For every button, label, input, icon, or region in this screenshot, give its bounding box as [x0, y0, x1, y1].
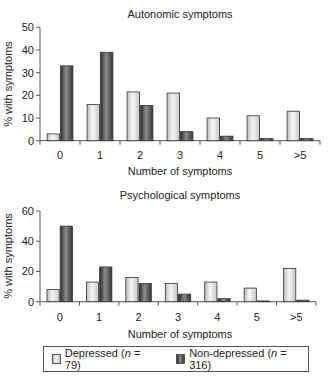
bar-group-4	[207, 118, 233, 141]
x-tick-label: 4	[217, 149, 223, 161]
bar-depressed	[47, 290, 59, 302]
legend-item-non-depressed: Non-depressed (n = 316)	[176, 347, 308, 371]
x-tick-label: 5	[254, 311, 260, 323]
x-tick-label: 1	[96, 311, 102, 323]
bar-depressed	[87, 104, 99, 140]
bar-non-depressed	[179, 294, 191, 302]
legend-label-non-depressed: Non-depressed (	[189, 347, 271, 359]
bar-group-gt5	[284, 268, 309, 301]
bar-group-0	[47, 66, 73, 141]
y-axis-label: % with symptoms	[2, 213, 14, 299]
bar-group-gt5	[287, 111, 313, 140]
bar-group-2	[127, 92, 153, 141]
legend-label-depressed: Depressed (	[65, 347, 125, 359]
x-tick-label: 5	[257, 149, 263, 161]
bar-group-1	[87, 52, 113, 140]
bar-non-depressed	[101, 52, 113, 140]
bar-non-depressed	[181, 132, 193, 141]
x-axis-label: Number of symptoms	[128, 165, 233, 177]
bar-depressed	[126, 278, 138, 302]
chart-title: Psychological symptoms	[120, 189, 241, 201]
x-tick-label: 1	[97, 149, 103, 161]
bar-depressed	[207, 118, 219, 141]
y-tick-label: 20	[22, 265, 34, 277]
bar-group-3	[165, 284, 190, 302]
y-tick-label: 10	[22, 112, 34, 124]
bar-depressed	[247, 116, 259, 141]
y-tick-label: 40	[22, 235, 34, 247]
legend: Depressed (n = 79) Non-depressed (n = 31…	[43, 346, 309, 372]
y-axis-label: % with symptoms	[2, 41, 14, 127]
x-tick-label: 2	[137, 149, 143, 161]
bar-non-depressed	[61, 66, 73, 141]
bar-group-3	[167, 93, 193, 141]
bar-non-depressed	[60, 226, 72, 302]
bar-non-depressed	[301, 138, 313, 140]
x-tick-label: 0	[57, 149, 63, 161]
y-tick-label: 0	[28, 296, 34, 308]
psychological-chart: Psychological symptoms0204060% with symp…	[2, 189, 316, 340]
bar-group-5	[247, 116, 273, 141]
bar-non-depressed	[257, 301, 269, 302]
x-axis-label: Number of symptoms	[128, 328, 233, 340]
bar-non-depressed	[139, 284, 151, 302]
bar-depressed	[165, 284, 177, 302]
bar-non-depressed	[221, 136, 233, 141]
bar-depressed	[287, 111, 299, 140]
x-tick-label: 0	[57, 311, 63, 323]
bar-non-depressed	[141, 106, 153, 141]
chart-title: Autonomic symptoms	[127, 8, 233, 20]
y-tick-label: 20	[22, 89, 34, 101]
bar-depressed	[47, 134, 59, 141]
bar-depressed	[205, 282, 217, 302]
bar-non-depressed	[100, 267, 112, 302]
bar-depressed	[244, 288, 256, 302]
x-tick-label: >5	[290, 311, 303, 323]
bar-depressed	[167, 93, 179, 141]
depressed-swatch-icon	[52, 354, 61, 364]
bar-non-depressed	[261, 138, 273, 140]
autonomic-chart: Autonomic symptoms01020304050% with symp…	[2, 8, 320, 177]
bar-depressed	[86, 282, 98, 302]
figure-canvas: Autonomic symptoms01020304050% with symp…	[0, 0, 329, 379]
bar-depressed	[127, 92, 139, 141]
non-depressed-swatch-icon	[176, 354, 185, 364]
x-tick-label: >5	[294, 149, 307, 161]
legend-item-depressed: Depressed (n = 79)	[52, 347, 156, 371]
y-tick-label: 60	[22, 205, 34, 217]
x-tick-label: 3	[175, 311, 181, 323]
bar-non-depressed	[218, 299, 230, 302]
bar-non-depressed	[297, 300, 309, 302]
x-tick-label: 3	[177, 149, 183, 161]
bar-group-5	[244, 288, 269, 302]
bar-group-0	[47, 226, 72, 302]
bar-group-1	[86, 267, 111, 302]
x-tick-label: 2	[136, 311, 142, 323]
y-tick-label: 30	[22, 67, 34, 79]
y-tick-label: 50	[22, 21, 34, 33]
y-tick-label: 0	[28, 135, 34, 147]
x-tick-label: 4	[214, 311, 220, 323]
y-tick-label: 40	[22, 44, 34, 56]
bar-depressed	[284, 268, 296, 301]
bar-group-2	[126, 278, 151, 302]
bar-group-4	[205, 282, 230, 302]
